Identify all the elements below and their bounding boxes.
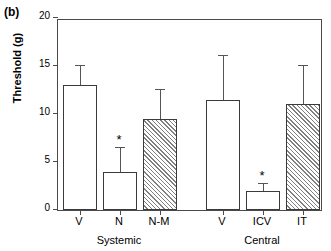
error-bar-cap-1 — [115, 147, 125, 148]
error-bar-stem-2 — [160, 90, 161, 119]
error-bar-cap-0 — [75, 65, 85, 66]
error-bar-stem-3 — [223, 56, 224, 99]
y-tick-label: 20 — [39, 11, 50, 21]
y-tick-label: 5 — [44, 155, 50, 165]
plot-area: 05101520 — [57, 19, 322, 211]
group-label-systemic: Systemic — [97, 235, 142, 246]
significance-asterisk-icv: * — [259, 169, 264, 182]
x-category-label-icv-4: ICV — [253, 216, 271, 227]
bar-v-0 — [63, 85, 97, 210]
y-axis-title: Threshold (g) — [11, 3, 23, 133]
x-category-label-n-1: N — [115, 216, 123, 227]
bar-n-m-2 — [143, 119, 177, 210]
y-tick-5: 5 — [53, 161, 58, 162]
x-category-label-v-0: V — [75, 216, 82, 227]
error-bar-cap-5 — [298, 65, 308, 66]
bar-n-1 — [103, 172, 137, 210]
error-bar-stem-1 — [120, 148, 121, 172]
bar-it-5 — [286, 104, 320, 210]
y-tick-0: 0 — [53, 209, 58, 210]
figure-panel-b: (b) Threshold (g) 05101520 VNN-MVICVIT S… — [0, 0, 331, 251]
group-label-central: Central — [244, 235, 279, 246]
y-tick-10: 10 — [53, 113, 58, 114]
y-tick-label: 0 — [44, 203, 50, 213]
x-category-label-n-m-2: N-M — [149, 216, 170, 227]
error-bar-stem-5 — [303, 66, 304, 104]
error-bar-cap-4 — [258, 183, 268, 184]
y-tick-label: 10 — [39, 107, 50, 117]
significance-asterisk-n: * — [116, 133, 121, 146]
x-category-label-it-5: IT — [297, 216, 307, 227]
bar-icv-4 — [246, 191, 280, 210]
bar-v-3 — [206, 100, 240, 210]
y-tick-20: 20 — [53, 17, 58, 18]
error-bar-cap-3 — [218, 55, 228, 56]
x-category-label-v-3: V — [218, 216, 225, 227]
error-bar-cap-2 — [155, 89, 165, 90]
error-bar-stem-4 — [263, 184, 264, 191]
error-bar-stem-0 — [80, 66, 81, 85]
y-tick-label: 15 — [39, 59, 50, 69]
y-tick-15: 15 — [53, 65, 58, 66]
